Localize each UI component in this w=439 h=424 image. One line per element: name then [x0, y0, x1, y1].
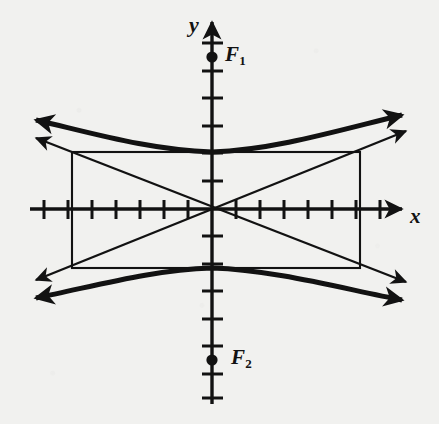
- focus-lower-point: [206, 354, 217, 365]
- focus-lower-subscript: 2: [245, 356, 252, 371]
- y-axis-label: y: [189, 14, 199, 36]
- focus-upper-label: F1: [225, 44, 246, 67]
- hyperbola-figure: [0, 0, 439, 424]
- axes-group: [30, 22, 402, 404]
- x-axis-label: x: [410, 206, 421, 227]
- focus-upper-subscript: 1: [239, 53, 246, 68]
- hyperbola-lower-branch: [36, 268, 402, 300]
- hyperbola-upper-branch: [36, 115, 402, 152]
- focus-upper-point: [206, 51, 217, 62]
- focus-lower-label: F2: [231, 347, 252, 370]
